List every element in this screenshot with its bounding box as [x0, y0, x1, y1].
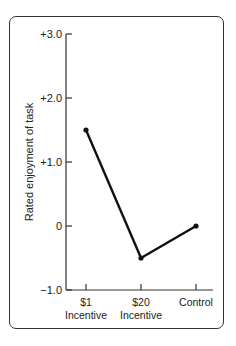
- y-tick-label: +2.0: [40, 92, 62, 104]
- y-tick-label: −1.0: [40, 284, 62, 296]
- y-tick-label: +3.0: [40, 28, 62, 40]
- data-point: [138, 255, 143, 260]
- data-point: [83, 127, 88, 132]
- y-tick-label: 0: [56, 220, 62, 232]
- x-category-label: Incentive: [65, 309, 107, 321]
- data-point: [193, 223, 198, 228]
- line-chart: +3.0+2.0+1.00−1.0$1Incentive$20Incentive…: [0, 0, 236, 346]
- x-category-label: Incentive: [120, 309, 162, 321]
- y-tick-label: +1.0: [40, 156, 62, 168]
- x-category-label: $1: [80, 296, 92, 308]
- data-line: [86, 130, 196, 258]
- y-axis-title: Rated enjoyment of task: [23, 102, 35, 221]
- x-category-label: Control: [179, 296, 213, 308]
- x-category-label: $20: [132, 296, 150, 308]
